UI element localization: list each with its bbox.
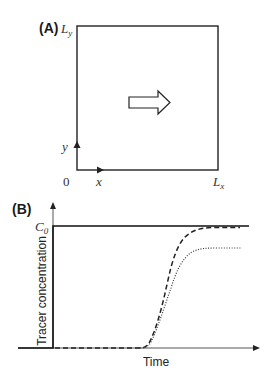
dashed-breakthrough-curve — [55, 228, 240, 349]
x-axis-title: Time — [143, 355, 170, 369]
panel-b-label: (B) — [12, 201, 31, 217]
x-axis-label: x — [95, 174, 102, 189]
step-input-curve — [18, 226, 249, 348]
y-axis-arrow-icon — [74, 141, 81, 148]
c0-label: C0 — [35, 219, 49, 236]
panel-a-label: (A) — [39, 20, 58, 36]
y-axis-arrow-icon — [50, 202, 56, 209]
panel-b: (B) C0 Tracer concentration Time — [12, 201, 260, 369]
panel-a: (A) Ly y 0 x Lx — [39, 20, 224, 191]
y-axis-title: Tracer concentration — [35, 236, 49, 346]
x-axis-arrow-icon — [253, 345, 260, 351]
lx-label: Lx — [212, 174, 224, 191]
figure-canvas: (A) Ly y 0 x Lx (B) C0 Tracer concentrat… — [0, 0, 275, 377]
x-axis-arrow-icon — [97, 167, 104, 174]
ly-label: Ly — [60, 21, 72, 38]
y-axis-label: y — [60, 139, 68, 154]
dotted-breakthrough-curve — [140, 248, 242, 348]
origin-label: 0 — [63, 174, 70, 189]
flow-direction-arrow-icon — [129, 91, 170, 114]
